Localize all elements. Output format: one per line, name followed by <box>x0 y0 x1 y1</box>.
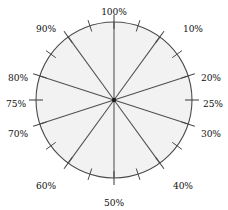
dial-label-10: 10% <box>183 24 203 34</box>
dial-label-50: 50% <box>104 198 124 208</box>
dial-label-100: 100% <box>101 7 127 17</box>
dial-label-25: 25% <box>203 99 223 109</box>
dial-label-30: 30% <box>201 129 221 139</box>
dial-canvas: 100%10%20%25%30%40%50%60%70%75%80%90% <box>0 0 228 210</box>
percentage-dial-figure: 100%10%20%25%30%40%50%60%70%75%80%90% <box>0 0 228 210</box>
dial-label-60: 60% <box>36 181 56 191</box>
dial-label-40: 40% <box>173 181 193 191</box>
dial-label-70: 70% <box>8 129 28 139</box>
dial-label-20: 20% <box>201 73 221 83</box>
dial-center-point <box>112 98 116 102</box>
dial-label-90: 90% <box>36 24 56 34</box>
dial-label-75: 75% <box>6 99 26 109</box>
dial-label-80: 80% <box>8 73 28 83</box>
